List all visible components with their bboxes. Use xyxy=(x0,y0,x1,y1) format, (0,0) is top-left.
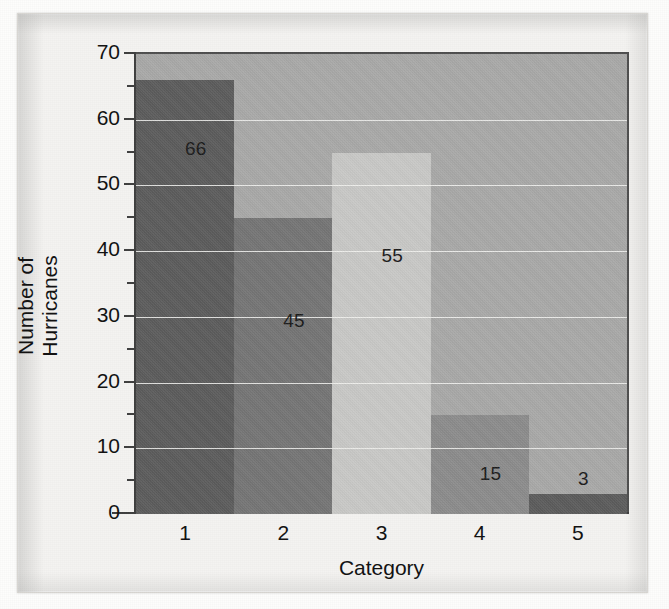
y-tick-label-10: 10 xyxy=(76,434,120,458)
y-tick-major-0 xyxy=(124,512,135,514)
y-tick-major-40 xyxy=(124,249,135,251)
gridline-60 xyxy=(136,120,627,121)
bar-value-label-3: 55 xyxy=(382,245,404,267)
y-tick-minor-15 xyxy=(127,413,135,415)
y-tick-label-70: 70 xyxy=(76,40,120,64)
scanned-page: 664555153 010203040506070 12345 Category… xyxy=(0,0,669,609)
bar-value-label-2: 45 xyxy=(283,310,305,332)
bar-category-3 xyxy=(332,153,430,514)
plot-area: 664555153 xyxy=(136,52,629,514)
x-tick-label-5: 5 xyxy=(548,521,608,545)
x-tick-label-2: 2 xyxy=(253,521,313,545)
y-tick-label-40: 40 xyxy=(76,237,120,261)
y-tick-major-50 xyxy=(124,183,135,185)
gridline-10 xyxy=(136,448,627,449)
bar-category-5 xyxy=(529,494,627,514)
x-tick-label-1: 1 xyxy=(155,521,215,545)
y-tick-minor-25 xyxy=(127,348,135,350)
y-tick-major-70 xyxy=(124,52,135,54)
y-tick-minor-5 xyxy=(127,479,135,481)
y-tick-major-30 xyxy=(124,315,135,317)
bar-value-label-5: 3 xyxy=(578,468,589,490)
bar-value-label-1: 66 xyxy=(185,138,207,160)
x-tick-label-4: 4 xyxy=(450,521,510,545)
x-tick-label-3: 3 xyxy=(352,521,412,545)
y-tick-label-20: 20 xyxy=(76,369,120,393)
y-axis-title: Number of Hurricanes xyxy=(14,206,62,406)
bar-category-2 xyxy=(234,218,332,514)
y-tick-minor-35 xyxy=(127,282,135,284)
y-tick-label-50: 50 xyxy=(76,171,120,195)
y-tick-label-30: 30 xyxy=(76,303,120,327)
gridline-30 xyxy=(136,317,627,318)
y-tick-minor-45 xyxy=(127,216,135,218)
y-tick-major-60 xyxy=(124,118,135,120)
y-axis-tick-labels-group: 010203040506070 xyxy=(70,0,120,609)
bar-value-label-4: 15 xyxy=(480,463,502,485)
y-tick-label-60: 60 xyxy=(76,106,120,130)
gridline-50 xyxy=(136,185,627,186)
y-tick-minor-55 xyxy=(127,151,135,153)
y-tick-major-20 xyxy=(124,381,135,383)
y-tick-minor-65 xyxy=(127,85,135,87)
y-tick-major-10 xyxy=(124,446,135,448)
y-tick-label-0: 0 xyxy=(76,500,120,524)
x-axis-title: Category xyxy=(136,556,627,580)
gridline-20 xyxy=(136,383,627,384)
